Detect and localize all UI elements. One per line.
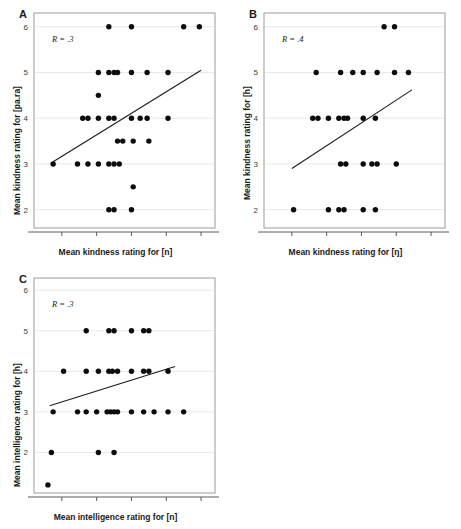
- panel-a-xaxis-title: Mean kindness rating for [n]: [0, 247, 231, 257]
- data-point: [146, 328, 151, 333]
- y-tick-label: 4: [254, 114, 259, 123]
- data-point: [85, 116, 90, 121]
- y-tick-label: 4: [24, 367, 29, 376]
- y-tick-label: 6: [24, 23, 29, 32]
- data-point: [111, 328, 116, 333]
- y-tick-label: 6: [254, 23, 259, 32]
- data-point: [131, 184, 136, 189]
- data-point: [115, 409, 120, 414]
- data-point: [314, 70, 319, 75]
- data-point: [129, 24, 134, 29]
- data-point: [381, 24, 386, 29]
- data-point: [151, 409, 156, 414]
- data-point: [96, 450, 101, 455]
- data-point: [345, 116, 350, 121]
- data-point: [392, 70, 397, 75]
- data-point: [197, 24, 202, 29]
- panel-c-xaxis-title: Mean intelligence rating for [n]: [0, 512, 231, 522]
- y-tick-label: 3: [24, 408, 29, 417]
- y-tick-label: 2: [24, 448, 29, 457]
- correlation-annotation: R = .4: [281, 34, 304, 44]
- data-point: [392, 24, 397, 29]
- data-point: [50, 161, 55, 166]
- data-point: [96, 93, 101, 98]
- figure-scatterplot-panels: A 2345623456R = .3 Mean kindness rating …: [0, 0, 461, 529]
- data-point: [80, 116, 85, 121]
- data-point: [181, 24, 186, 29]
- panel-a-plot: 2345623456R = .3: [0, 0, 231, 240]
- y-tick-label: 3: [254, 160, 259, 169]
- data-point: [373, 207, 378, 212]
- data-point: [131, 138, 136, 143]
- data-point: [106, 328, 111, 333]
- data-point: [338, 70, 343, 75]
- data-point: [165, 409, 170, 414]
- y-tick-label: 5: [24, 68, 29, 77]
- data-point: [106, 116, 111, 121]
- data-point: [165, 369, 170, 374]
- y-tick-label: 5: [24, 327, 29, 336]
- data-point: [45, 482, 50, 487]
- panel-a-yaxis-title: Mean kindness rating for [pa.ra]: [12, 86, 22, 215]
- data-point: [75, 161, 80, 166]
- data-point: [96, 369, 101, 374]
- y-tick-label: 3: [24, 160, 29, 169]
- data-point: [111, 161, 116, 166]
- data-point: [129, 207, 134, 212]
- data-point: [110, 369, 115, 374]
- data-point: [361, 70, 366, 75]
- data-point: [361, 116, 366, 121]
- data-point: [326, 116, 331, 121]
- y-tick-label: 4: [24, 114, 29, 123]
- data-point: [141, 409, 146, 414]
- data-point: [75, 409, 80, 414]
- data-point: [338, 161, 343, 166]
- data-point: [336, 207, 341, 212]
- y-tick-label: 2: [254, 206, 259, 215]
- data-point: [111, 450, 116, 455]
- data-point: [106, 24, 111, 29]
- correlation-annotation: R = .3: [51, 299, 74, 309]
- data-point: [129, 328, 134, 333]
- data-point: [343, 161, 348, 166]
- data-point: [374, 70, 379, 75]
- data-point: [115, 369, 120, 374]
- panel-b-yaxis-title: Mean kindness rating for [h]: [242, 86, 252, 200]
- regression-line: [53, 70, 201, 161]
- data-point: [315, 116, 320, 121]
- data-point: [61, 369, 66, 374]
- data-point: [369, 161, 374, 166]
- data-point: [361, 207, 366, 212]
- plot-frame: [34, 278, 215, 493]
- data-point: [106, 161, 111, 166]
- data-point: [111, 207, 116, 212]
- panel-c-letter: C: [19, 273, 27, 285]
- data-point: [94, 409, 99, 414]
- data-point: [291, 207, 296, 212]
- data-point: [96, 161, 101, 166]
- data-point: [115, 138, 120, 143]
- data-point: [146, 138, 151, 143]
- data-point: [50, 409, 55, 414]
- panel-a: A 2345623456R = .3 Mean kindness rating …: [0, 0, 231, 265]
- panel-b-letter: B: [249, 8, 257, 20]
- panel-b-plot: 2345623456R = .4: [230, 0, 461, 240]
- data-point: [84, 328, 89, 333]
- data-point: [361, 161, 366, 166]
- data-point: [129, 70, 134, 75]
- data-point: [181, 409, 186, 414]
- panel-c-yaxis-title: Mean intelligence rating for [h]: [12, 363, 22, 487]
- data-point: [336, 116, 341, 121]
- data-point: [394, 161, 399, 166]
- data-point: [96, 116, 101, 121]
- data-point: [115, 70, 120, 75]
- data-point: [310, 116, 315, 121]
- y-tick-label: 5: [254, 68, 259, 77]
- data-point: [84, 409, 89, 414]
- panel-b-xaxis-title: Mean kindness rating for [ŋ]: [230, 247, 461, 257]
- data-point: [84, 369, 89, 374]
- data-point: [120, 138, 125, 143]
- data-point: [137, 116, 142, 121]
- correlation-annotation: R = .3: [51, 34, 74, 44]
- y-tick-label: 6: [24, 286, 29, 295]
